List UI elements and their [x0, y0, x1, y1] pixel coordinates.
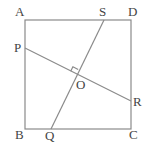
label-b: B — [15, 127, 24, 142]
geometry-diagram: A B C D P Q R S O — [0, 0, 151, 151]
right-angle-marker — [71, 67, 79, 72]
label-p: P — [14, 40, 21, 55]
label-c: C — [129, 127, 138, 142]
label-q: Q — [45, 128, 55, 143]
label-r: R — [133, 94, 142, 109]
label-s: S — [99, 4, 106, 19]
segment-sq — [51, 20, 104, 129]
label-a: A — [15, 4, 25, 19]
label-o: O — [76, 77, 85, 92]
label-d: D — [128, 4, 137, 19]
